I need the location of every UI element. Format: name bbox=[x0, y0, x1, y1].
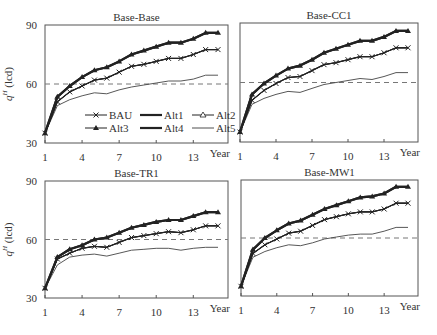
legend-item-bau: BAU bbox=[85, 109, 132, 121]
x-axis-label: Year bbox=[400, 300, 421, 312]
y-tick-label: 90 bbox=[26, 19, 38, 31]
x-tick-label: 7 bbox=[116, 306, 122, 318]
series-alt3 bbox=[241, 187, 408, 286]
x-tick-label: 13 bbox=[188, 151, 200, 163]
x-tick-label: 4 bbox=[273, 150, 279, 162]
x-tick-label: 10 bbox=[343, 304, 355, 316]
x-tick-label: 4 bbox=[274, 304, 280, 316]
legend-item-alt3: Alt3 bbox=[85, 122, 129, 134]
x-axis-label: Year bbox=[210, 147, 231, 159]
legend: BAUAlt1Alt2Alt3Alt4Alt5 bbox=[85, 109, 236, 134]
panel-title: Base-CC1 bbox=[306, 9, 351, 21]
x-tick-label: 13 bbox=[188, 306, 200, 318]
legend-item-alt1: Alt1 bbox=[140, 109, 184, 121]
legend-item-alt5: Alt5 bbox=[192, 122, 236, 134]
figure: Base-Base1471013Year306090qH (lcd)BAUAlt… bbox=[0, 0, 437, 335]
x-tick-label: 1 bbox=[42, 306, 48, 318]
x-tick-label: 7 bbox=[310, 304, 316, 316]
x-tick-label: 7 bbox=[309, 150, 315, 162]
legend-label: Alt2 bbox=[216, 109, 236, 121]
y-tick-label: 90 bbox=[26, 175, 38, 187]
y-axis-label: qH (lcd) bbox=[1, 67, 15, 101]
legend-item-alt2: Alt2 bbox=[192, 109, 236, 121]
marker-cross bbox=[117, 240, 122, 245]
x-tick-label: 4 bbox=[79, 151, 85, 163]
chart-panel-2: Base-CC11471013Year bbox=[237, 9, 420, 162]
x-tick-label: 7 bbox=[116, 151, 122, 163]
series-alt3 bbox=[240, 31, 408, 132]
x-axis-label: Year bbox=[210, 302, 231, 314]
legend-label: BAU bbox=[109, 109, 132, 121]
panel-title: Base-Base bbox=[113, 11, 160, 23]
marker-cross bbox=[262, 242, 267, 247]
marker-cross bbox=[274, 81, 279, 86]
series-alt5 bbox=[45, 247, 218, 288]
legend-label: Alt4 bbox=[164, 122, 184, 134]
x-tick-label: 10 bbox=[151, 306, 163, 318]
x-tick-label: 13 bbox=[379, 150, 391, 162]
x-tick-label: 1 bbox=[42, 151, 48, 163]
x-tick-label: 13 bbox=[379, 304, 391, 316]
y-tick-label: 60 bbox=[26, 78, 38, 90]
panel-title: Base-MW1 bbox=[304, 166, 355, 178]
chart-panels: Base-Base1471013Year306090qH (lcd)BAUAlt… bbox=[0, 0, 437, 335]
marker-cross bbox=[117, 70, 122, 75]
x-tick-label: 10 bbox=[343, 150, 355, 162]
legend-label: Alt3 bbox=[109, 122, 129, 134]
legend-item-alt4: Alt4 bbox=[140, 122, 184, 134]
x-tick-label: 1 bbox=[237, 150, 243, 162]
marker-cross bbox=[67, 89, 72, 94]
x-tick-label: 10 bbox=[151, 151, 163, 163]
series-bau bbox=[241, 203, 408, 286]
x-tick-label: 4 bbox=[79, 306, 85, 318]
legend-label: Alt1 bbox=[164, 109, 184, 121]
chart-panel-1: Base-Base1471013Year306090qH (lcd)BAUAlt… bbox=[1, 11, 236, 163]
x-axis-label: Year bbox=[400, 146, 421, 158]
y-tick-label: 60 bbox=[26, 234, 38, 246]
panel-title: Base-TR1 bbox=[114, 167, 159, 179]
series-bau bbox=[240, 48, 408, 132]
y-tick-label: 30 bbox=[26, 292, 38, 304]
y-tick-label: 30 bbox=[26, 137, 38, 149]
y-axis-label: qH (lcd) bbox=[1, 222, 15, 256]
x-tick-label: 1 bbox=[238, 304, 244, 316]
chart-panel-3: Base-TR11471013Year306090qH (lcd) bbox=[1, 167, 230, 318]
marker-cross bbox=[310, 68, 315, 73]
chart-panel-4: Base-MW11471013Year bbox=[238, 166, 420, 316]
legend-label: Alt5 bbox=[216, 122, 236, 134]
marker-cross bbox=[274, 236, 279, 241]
marker-cross bbox=[310, 223, 315, 228]
marker-cross bbox=[262, 88, 267, 93]
